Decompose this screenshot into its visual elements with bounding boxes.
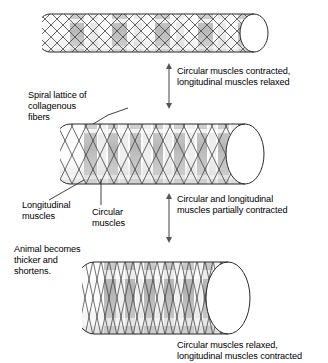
- arrow-top-middle: [162, 62, 176, 114]
- double-arrow-icon: [162, 62, 176, 110]
- caption-middle: Circular and longitudinal muscles partia…: [177, 194, 288, 216]
- cylinder-top: [42, 6, 282, 60]
- arrow-middle-bottom: [162, 192, 176, 248]
- label-circular-muscles: Circular muscles: [92, 207, 125, 229]
- cylinder-bottom: [82, 256, 282, 340]
- caption-top: Circular muscles contracted, longitudina…: [177, 66, 290, 88]
- label-animal-becomes: Animal becomes thicker and shortens.: [14, 244, 81, 278]
- cylinder-bottom-graphic: [82, 256, 282, 340]
- double-arrow-icon: [162, 192, 176, 244]
- leader-circular-muscles: [96, 178, 106, 210]
- leader-line: [96, 178, 106, 206]
- figure-canvas: Circular muscles contracted, longitudina…: [0, 0, 328, 363]
- cylinder-top-graphic: [42, 6, 282, 60]
- label-longitudinal-muscles: Longitudinal muscles: [22, 200, 70, 222]
- leader-line: [48, 178, 88, 202]
- caption-bottom: Circular muscles relaxed, longitudinal m…: [177, 340, 302, 362]
